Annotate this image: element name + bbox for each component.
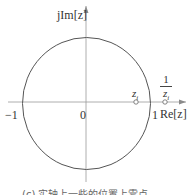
imag-axis-label: jIm[z]: [57, 9, 87, 21]
figure-caption: (c) 实轴上一些的位置上零点: [22, 186, 148, 195]
tick-label-one: 1: [152, 109, 158, 121]
real-axis-arrow-icon: [179, 100, 186, 105]
point-label-inverse-z-i: 1 zi: [160, 74, 172, 102]
point-label-z-i: zi: [132, 88, 138, 102]
unit-circle: [23, 38, 151, 170]
tick-label-zero: 0: [80, 109, 86, 121]
real-axis-label: Re[z]: [160, 108, 187, 120]
z-plane-figure: jIm[z] Re[z] −1 0 1 zi 1 zi (c) 实轴上一些的位置…: [0, 0, 194, 195]
tick-label-neg-one: −1: [5, 109, 18, 121]
